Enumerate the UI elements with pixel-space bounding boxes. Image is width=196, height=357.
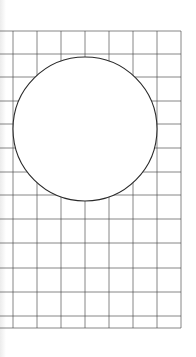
- grid-circle-diagram: [0, 0, 196, 357]
- circle-shape: [13, 57, 157, 201]
